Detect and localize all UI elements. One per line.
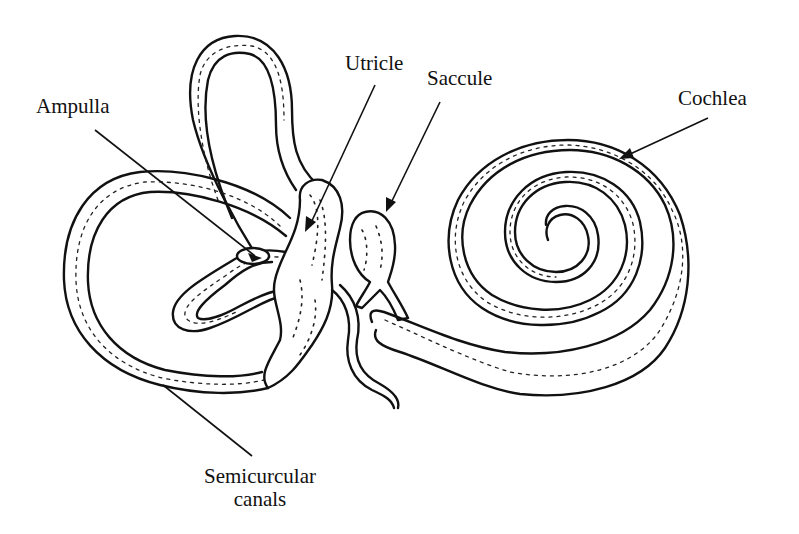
saccule-arrowhead-icon [386,197,396,212]
ampulla-leader-line [95,130,255,256]
label-semicircular-canals-line1: Semicurcular [190,466,330,487]
semicircular-leader-line [163,385,252,456]
saccule-leader-line [390,102,440,205]
lateral-semicircular-canal [173,248,286,331]
cochlea-shape [371,140,689,395]
label-saccule: Saccule [427,68,492,89]
label-semicircular-canals-line2: canals [190,489,330,510]
utricle-shape [264,180,342,388]
inner-ear-diagram: Ampulla Utricle Saccule Cochlea Semicurc… [0,0,799,534]
saccule-shape [350,211,408,320]
cochlea-arrowhead-icon [619,148,634,159]
leader-lines [95,85,708,456]
label-ampulla: Ampulla [36,96,110,117]
anatomy-drawing [0,0,799,534]
cochlea-leader-line [628,118,708,155]
label-utricle: Utricle [345,53,403,74]
posterior-semicircular-canal [64,171,290,393]
label-cochlea: Cochlea [678,88,747,109]
